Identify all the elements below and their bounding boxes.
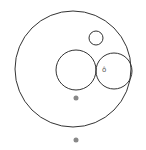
small-top-circle <box>89 31 103 45</box>
middle-left-circle <box>56 50 96 90</box>
small-marker-glyph: ô <box>102 66 106 74</box>
diagram-canvas: ô <box>0 0 146 150</box>
inner-dot <box>74 96 79 101</box>
outer-circle <box>15 11 131 127</box>
outer-dot <box>74 138 79 143</box>
